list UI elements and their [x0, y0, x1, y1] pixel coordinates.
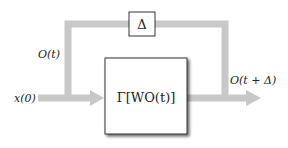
input-label: x(0) [14, 92, 36, 105]
feedback-diagram: Δ Γ[WO(t)] O(t) x(0) O(t + Δ) [0, 0, 288, 148]
delay-label: Δ [137, 17, 146, 32]
output-label: O(t + Δ) [230, 74, 276, 87]
output-arrowhead [246, 90, 261, 106]
diagram-canvas: Δ Γ[WO(t)] O(t) x(0) O(t + Δ) [0, 0, 288, 148]
feedback-label: O(t) [38, 48, 60, 61]
block-label: Γ[WO(t)] [117, 90, 176, 105]
input-arrowhead [90, 90, 104, 106]
